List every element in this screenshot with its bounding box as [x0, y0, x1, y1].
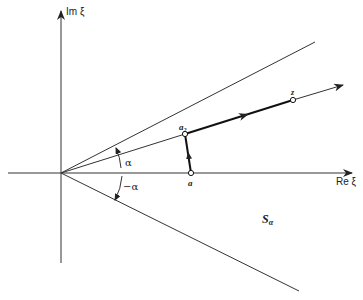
sector-diagram: Im ξ Re ξ α −α a a2 z Sα	[0, 0, 363, 300]
point-a	[188, 170, 193, 175]
point-z	[290, 97, 295, 102]
point-a-label: a	[188, 178, 193, 188]
angle-neg-alpha-label: −α	[123, 181, 138, 192]
angle-alpha-label: α	[125, 157, 132, 168]
ray-through-z	[61, 134, 185, 173]
lower-boundary-ray	[61, 173, 299, 291]
region-label: Sα	[262, 212, 274, 227]
real-axis-label: Re ξ	[336, 176, 357, 188]
angle-neg-alpha-arc	[115, 176, 122, 200]
path-a2-to-z	[185, 100, 293, 134]
path-a-to-a2	[185, 134, 191, 173]
ray-beyond-z	[293, 85, 343, 100]
imaginary-axis-label: Im ξ	[66, 6, 85, 18]
point-z-label: z	[290, 88, 295, 97]
point-a2-label: a2	[179, 122, 187, 133]
angle-alpha-arc	[116, 148, 121, 168]
